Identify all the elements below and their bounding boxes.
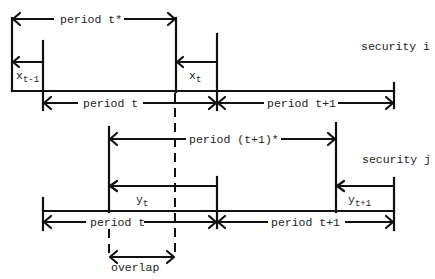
security-i-period-t1-label: period t+1: [267, 97, 336, 110]
security-j-label: security j: [362, 153, 431, 166]
security-j-group: period (t+1)* yt yt+1 period t period t+…: [43, 123, 431, 230]
y-next-label: yt+1: [348, 193, 371, 209]
security-j-period-star-label: period (t+1)*: [189, 133, 279, 146]
y-curr-label: yt: [136, 193, 148, 209]
x-curr-label: xt: [189, 69, 201, 85]
overlap-group: overlap: [110, 251, 174, 274]
security-i-period-t-label: period t: [83, 97, 138, 110]
security-j-period-t-label: period t: [90, 216, 145, 229]
overlap-label: overlap: [111, 261, 159, 274]
security-j-period-t1-label: period t+1: [271, 216, 340, 229]
security-i-group: period t* xt-1 xt period t period t+1 se…: [12, 13, 430, 110]
period-overlap-diagram: period t* xt-1 xt period t period t+1 se…: [0, 0, 435, 279]
security-i-label: security i: [361, 40, 430, 53]
security-i-period-star-label: period t*: [60, 13, 122, 26]
x-prev-label: xt-1: [16, 69, 39, 85]
